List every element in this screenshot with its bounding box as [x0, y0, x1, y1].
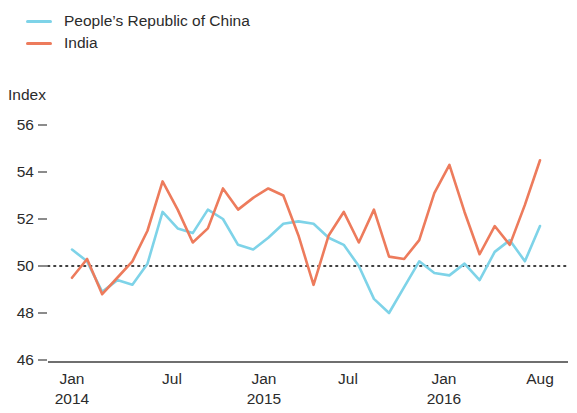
y-axis-ticks [38, 125, 47, 360]
plot-area [0, 0, 577, 413]
data-line-india [72, 160, 540, 294]
chart-container: People’s Republic of China India Index 5… [0, 0, 577, 413]
